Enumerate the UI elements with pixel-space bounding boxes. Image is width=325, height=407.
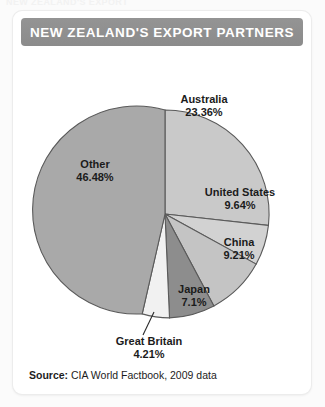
pie-label-other-name: Other [53, 158, 137, 171]
pie-label-other: Other 46.48% [53, 158, 137, 184]
pie-label-japan-value: 7.1% [163, 296, 225, 309]
cut-off-header-strip: NEW ZEALAND'S EXPORT [0, 0, 325, 11]
pie-label-united-states-name: United States [191, 186, 289, 199]
card-header-bar: NEW ZEALAND'S EXPORT PARTNERS [21, 18, 303, 46]
pie-label-other-value: 46.48% [53, 171, 137, 184]
pie-label-japan-name: Japan [163, 283, 225, 296]
pie-label-china: China 9.21% [199, 236, 279, 262]
pie-slice-other[interactable] [33, 106, 165, 314]
pie-slices [33, 106, 269, 318]
infographic-card: NEW ZEALAND'S EXPORT PARTNERS [13, 11, 311, 394]
source-label: Source: [29, 369, 68, 381]
pie-label-australia-value: 23.36% [161, 106, 247, 119]
pie-label-australia: Australia 23.36% [161, 93, 247, 119]
card-footer: Source: CIA World Factbook, 2009 data [13, 356, 311, 394]
source-text: CIA World Factbook, 2009 data [68, 369, 217, 381]
cut-off-header-text: NEW ZEALAND'S EXPORT [6, 0, 128, 7]
pie-label-united-states: United States 9.64% [191, 186, 289, 212]
pie-chart: Australia 23.36% United States 9.64% Chi… [13, 47, 311, 357]
page-title: NEW ZEALAND'S EXPORT PARTNERS [30, 25, 294, 40]
pie-label-japan: Japan 7.1% [163, 283, 225, 309]
pie-label-australia-name: Australia [161, 93, 247, 106]
pie-label-china-name: China [199, 236, 279, 249]
pie-label-great-britain-name: Great Britain [91, 335, 207, 348]
source-note: Source: CIA World Factbook, 2009 data [29, 369, 217, 381]
pie-label-united-states-value: 9.64% [191, 199, 289, 212]
pie-label-china-value: 9.21% [199, 249, 279, 262]
